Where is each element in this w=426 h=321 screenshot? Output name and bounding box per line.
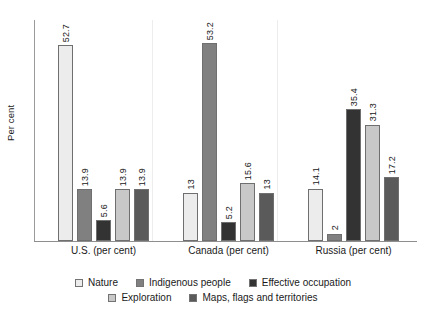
bar	[346, 109, 361, 241]
x-axis-group-label: U.S. (per cent)	[44, 245, 164, 256]
legend-label: Indigenous people	[149, 277, 231, 288]
legend-item[interactable]: Nature	[75, 277, 118, 288]
y-axis-line	[34, 20, 35, 242]
legend-swatch-icon	[108, 294, 116, 302]
legend-swatch-icon	[249, 279, 257, 287]
bar-value-label: 13	[262, 179, 272, 189]
chart-legend: NatureIndigenous peopleEffective occupat…	[0, 275, 426, 305]
legend-swatch-icon	[189, 294, 197, 302]
bar	[240, 183, 255, 241]
legend-item[interactable]: Maps, flags and territories	[189, 292, 317, 303]
x-axis-group-label: Canada (per cent)	[169, 245, 289, 256]
bar-value-label: 53.2	[205, 22, 215, 40]
bar	[327, 234, 342, 241]
legend-label: Exploration	[121, 292, 171, 303]
legend-label: Maps, flags and territories	[202, 292, 317, 303]
bar-value-label: 13.9	[80, 168, 90, 186]
x-axis-group-label: Russia (per cent)	[294, 245, 414, 256]
bar-value-label: 2	[330, 225, 340, 230]
legend-swatch-icon	[75, 279, 83, 287]
bar	[259, 193, 274, 241]
legend-label: Nature	[88, 277, 118, 288]
plot-area: 52.713.95.613.913.91353.25.215.61314.123…	[34, 20, 417, 242]
legend-label: Effective occupation	[262, 277, 351, 288]
legend-item[interactable]: Indigenous people	[136, 277, 231, 288]
bar-value-label: 17.2	[387, 156, 397, 174]
bar-value-label: 13.9	[118, 168, 128, 186]
bar	[77, 189, 92, 241]
bar-value-label: 15.6	[243, 162, 253, 180]
bar-value-label: 5.6	[99, 204, 109, 217]
group-separator-2	[277, 20, 278, 241]
bar	[183, 193, 198, 241]
bar	[202, 43, 217, 241]
bar	[384, 177, 399, 241]
legend-row-2: ExplorationMaps, flags and territories	[0, 290, 426, 305]
group-separator-1	[152, 20, 153, 241]
bar	[221, 222, 236, 241]
bar	[58, 45, 73, 241]
bar	[308, 189, 323, 241]
legend-item[interactable]: Exploration	[108, 292, 171, 303]
bar-value-label: 31.3	[368, 103, 378, 121]
bar	[115, 189, 130, 241]
bar	[365, 125, 380, 241]
bar-value-label: 13	[186, 179, 196, 189]
bar-value-label: 35.4	[349, 88, 359, 106]
bar	[96, 220, 111, 241]
bar-value-label: 14.1	[311, 167, 321, 185]
legend-swatch-icon	[136, 279, 144, 287]
bar-value-label: 52.7	[61, 24, 71, 42]
legend-item[interactable]: Effective occupation	[249, 277, 351, 288]
y-axis-title: Per cent	[4, 88, 18, 158]
bar-value-label: 13.9	[137, 168, 147, 186]
bar-value-label: 5.2	[224, 206, 234, 219]
bar	[134, 189, 149, 241]
legend-row-1: NatureIndigenous peopleEffective occupat…	[0, 275, 426, 290]
x-axis-line	[34, 241, 417, 242]
bar-chart: Per cent 52.713.95.613.913.91353.25.215.…	[0, 0, 426, 321]
